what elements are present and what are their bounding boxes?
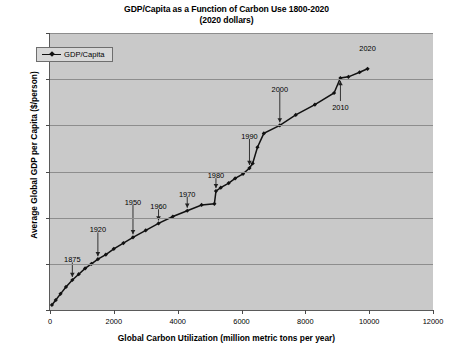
y-tick-mark (46, 33, 50, 34)
annotation-label-1970: 1970 (179, 190, 195, 199)
legend-line-marker-icon (42, 51, 61, 58)
x-tick-label: 6000 (222, 317, 262, 326)
x-tick-label: 12000 (413, 317, 453, 326)
annotation-label-1875: 1875 (64, 255, 80, 264)
chart-title-main: GDP/Capita as a Function of Carbon Use 1… (0, 4, 453, 15)
annotation-arrow-head-1970 (185, 204, 190, 208)
x-tick-label: 0 (30, 317, 70, 326)
annotation-arrow-head-1980 (214, 184, 219, 188)
x-tick-label: 2000 (94, 317, 134, 326)
x-tick-mark (305, 310, 306, 314)
data-point-marker (212, 202, 216, 206)
data-point-marker (365, 67, 369, 71)
data-point-marker (357, 70, 361, 74)
data-point-marker (200, 203, 204, 207)
x-tick-label: 8000 (285, 317, 325, 326)
y-tick-mark (46, 125, 50, 126)
annotation-label-1950: 1950 (125, 198, 141, 207)
x-tick-mark (50, 310, 51, 314)
annotation-label-2000: 2000 (272, 85, 288, 94)
y-tick-mark (46, 79, 50, 80)
chart-container: GDP/Capita as a Function of Carbon Use 1… (0, 0, 453, 355)
plot-area: 0200040006000800010000120000200040006000… (49, 33, 433, 311)
legend-label-gdp-capita: GDP/Capita (64, 50, 105, 59)
annotation-arrow-head-1875 (70, 273, 75, 277)
y-gridline (50, 79, 433, 80)
x-axis-label: Global Carbon Utilization (million metri… (0, 333, 453, 343)
x-tick-mark (242, 310, 243, 314)
y-tick-mark (46, 264, 50, 265)
annotation-label-2010: 2010 (332, 103, 348, 112)
series-line-gdp-capita (52, 69, 368, 305)
x-tick-mark (433, 310, 434, 314)
x-tick-mark (114, 310, 115, 314)
x-tick-label: 4000 (158, 317, 198, 326)
chart-legend: GDP/Capita (36, 47, 113, 62)
annotation-arrow-head-1920 (96, 252, 101, 256)
annotation-label-1960: 1960 (150, 202, 166, 211)
y-gridline (50, 33, 433, 34)
y-axis-label: Average Global GDP per Capita ($/person) (29, 35, 39, 275)
x-tick-mark (178, 310, 179, 314)
annotation-label-2020: 2020 (359, 44, 375, 53)
x-tick-mark (369, 310, 370, 314)
y-gridline (50, 264, 433, 265)
y-tick-mark (46, 172, 50, 173)
x-tick-label: 10000 (349, 317, 389, 326)
annotation-label-1920: 1920 (90, 225, 106, 234)
annotation-arrow-head-2000 (278, 118, 283, 122)
annotation-arrow-head-1950 (131, 230, 136, 234)
annotation-label-1980: 1980 (208, 171, 224, 180)
chart-title-subtitle: (2020 dollars) (0, 15, 453, 26)
annotation-label-1990: 1990 (241, 132, 257, 141)
data-point-marker (185, 209, 189, 213)
y-tick-mark (46, 218, 50, 219)
y-gridline (50, 218, 433, 219)
chart-title: GDP/Capita as a Function of Carbon Use 1… (0, 4, 453, 26)
y-gridline (50, 172, 433, 173)
y-gridline (50, 125, 433, 126)
